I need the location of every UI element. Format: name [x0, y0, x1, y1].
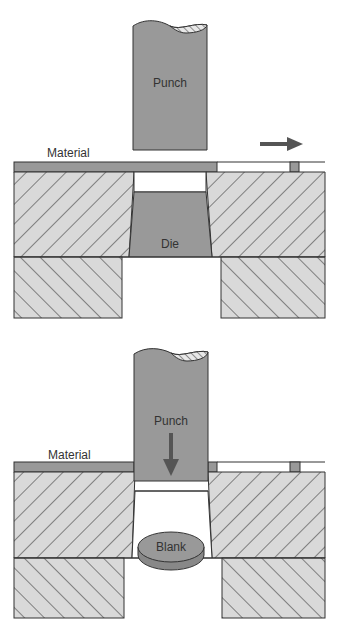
material-label: Material [47, 146, 90, 160]
die-plate: Die [14, 172, 325, 257]
punch: Punch [133, 21, 207, 150]
punch: Punch [134, 349, 208, 481]
panel-before-cut: Punch Material Die [14, 21, 325, 318]
punch-label: Punch [154, 414, 188, 428]
die-label: Die [161, 237, 179, 251]
material-strip [14, 162, 325, 172]
blanking-diagram: Punch Material Die [0, 0, 344, 633]
die-base [14, 257, 325, 318]
blank-label: Blank [156, 540, 187, 554]
panel-after-cut: Material Punch [14, 349, 325, 618]
blank: Blank [138, 532, 204, 570]
material-label: Material [48, 448, 91, 462]
punch-label: Punch [153, 76, 187, 90]
feed-arrow-icon [260, 137, 303, 151]
